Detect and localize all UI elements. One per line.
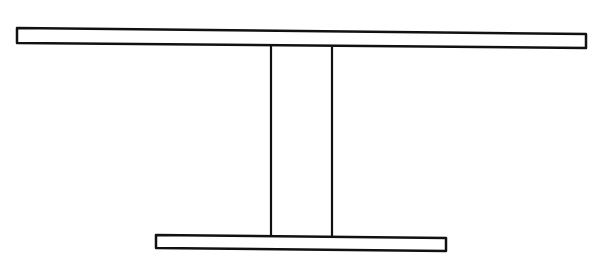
base-plank xyxy=(156,235,446,251)
pedestal-table-diagram xyxy=(0,0,602,269)
top-plank xyxy=(17,28,586,48)
